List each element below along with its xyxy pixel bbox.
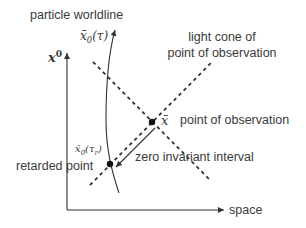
axes bbox=[67, 53, 224, 210]
light-cone-label: light cone of point of observation bbox=[164, 31, 280, 59]
worldline-param-label: x̄0(τ) bbox=[80, 30, 108, 45]
retarded-param-close: ) bbox=[98, 143, 102, 154]
light-cone-label-line2: point of observation bbox=[164, 47, 280, 60]
zero-interval-label: zero invariant interval bbox=[135, 151, 254, 164]
time-axis-symbol: x bbox=[48, 50, 56, 65]
observation-symbol: x̄ bbox=[161, 114, 168, 127]
time-axis-label: x0 bbox=[48, 49, 62, 64]
observation-point-label: point of observation bbox=[180, 114, 289, 127]
worldline-label: particle worldline bbox=[30, 9, 123, 22]
retarded-point-label: retarded point bbox=[16, 160, 93, 173]
space-axis-label: space bbox=[229, 204, 262, 217]
worldline-param-arg: (τ) bbox=[92, 29, 108, 43]
retarded-point-dot bbox=[107, 161, 113, 167]
particle-worldline bbox=[106, 30, 119, 193]
retarded-param-label: x̄0(τr) bbox=[75, 144, 102, 157]
retarded-param-arg: (τ bbox=[85, 143, 94, 154]
worldline-param-symbol: x̄ bbox=[80, 29, 87, 43]
observation-point-dot bbox=[149, 119, 155, 125]
light-cone-label-line1: light cone of bbox=[164, 31, 280, 44]
time-axis-sup: 0 bbox=[56, 48, 62, 59]
